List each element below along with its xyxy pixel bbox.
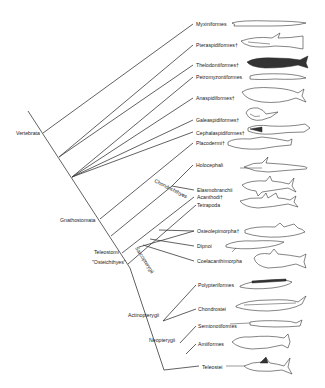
bichir-illustration xyxy=(240,279,292,289)
taxon-elasmobranchii: Elasmobranchii xyxy=(197,187,232,193)
taxon-holocephali: Holocephali xyxy=(196,162,223,168)
gar-illustration xyxy=(230,320,302,327)
taxon-chondrostei: Chondrostei xyxy=(198,306,226,312)
clade-neopterygii: Neopterygii xyxy=(149,337,175,343)
taxon-dipnoi: Dipnoi xyxy=(197,243,212,249)
clade-osteichthyes: "Osteichthyes" xyxy=(92,259,126,265)
tree-branches xyxy=(28,24,199,370)
placoderm-illustration xyxy=(228,137,292,149)
phylogenetic-tree: Myxiniformes Pteraspidiformes† Thelodont… xyxy=(0,0,325,388)
taxon-thelodontiformes: Thelodontiformes† xyxy=(196,62,239,68)
taxon-amiiformes: Amiiformes xyxy=(198,341,224,347)
clade-actinopterygii: Actinopterygii xyxy=(128,312,159,318)
clade-labels: Vertebrata Gnathostomata Teleostomi "Ost… xyxy=(16,130,189,343)
taxon-tetrapoda: Tetrapoda xyxy=(197,202,220,208)
coelacanth-illustration xyxy=(254,249,306,268)
shark-illustration xyxy=(242,176,296,196)
chimaera-illustration xyxy=(240,157,307,172)
taxon-cephalaspidiformes: Cephalaspidiformes† xyxy=(196,130,245,136)
taxon-anaspidiformes: Anaspidiformes† xyxy=(196,95,235,101)
sturgeon-illustration xyxy=(236,296,306,311)
taxon-osteolepimorpha: Osteolepimorpha† xyxy=(197,228,240,234)
taxon-polypteriformes: Polypteriformes xyxy=(198,282,234,288)
cephalaspid-illustration xyxy=(248,124,310,134)
lamprey-illustration xyxy=(250,74,306,80)
thelodont-illustration xyxy=(247,56,308,68)
acanthodian-illustration xyxy=(240,193,298,208)
taxon-galeaspidiformes: Galeaspidiformes† xyxy=(196,117,239,123)
anaspid-illustration xyxy=(242,88,306,103)
clade-gnathostomata: Gnathostomata xyxy=(60,217,96,223)
taxon-pteraspidiformes: Pteraspidiformes† xyxy=(196,42,238,48)
clade-vertebrata: Vertebrata xyxy=(16,130,40,136)
taxon-petromyzontiformes: Petromyzontiformes xyxy=(196,74,243,80)
pteraspid-illustration xyxy=(241,33,303,49)
taxon-teleostei: Teleostei xyxy=(202,364,222,370)
taxon-acanthodi: Acanthodi† xyxy=(197,194,223,200)
clade-teleostomi: Teleostomi xyxy=(94,249,119,255)
bowfin-illustration xyxy=(232,334,290,349)
hagfish-illustration xyxy=(232,21,306,26)
taxon-labels: Myxiniformes Pteraspidiformes† Thelodont… xyxy=(196,21,245,370)
taxon-placodermi: Placodermi† xyxy=(196,140,225,146)
taxon-coelacanthimorpha: Coelacanthimorpha xyxy=(197,258,242,264)
taxon-myxiniformes: Myxiniformes xyxy=(196,21,227,27)
galeaspid-illustration xyxy=(246,108,278,121)
clade-chondrichthyes: Chondrichthyes xyxy=(154,178,189,200)
osteolepiform-illustration xyxy=(245,223,305,237)
swordfish-illustration xyxy=(226,357,292,374)
